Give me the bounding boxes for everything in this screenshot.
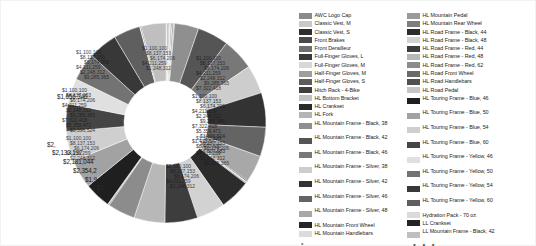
legend-item[interactable]: HL Crankset [299, 103, 411, 110]
legend-swatch [407, 37, 420, 43]
legend-item[interactable]: HL Road Pedal [407, 87, 519, 94]
chart-legend: AWC Logo CapClassic Vest, MClassic Vest,… [299, 12, 535, 240]
legend-item-label: HL Road Pedal [423, 87, 459, 93]
legend-swatch [299, 196, 312, 202]
legend-swatch [299, 62, 312, 68]
legend-item-label: HL Road Frame - Red, 62 [423, 62, 484, 68]
legend-item[interactable]: Half-Finger Gloves, M [299, 70, 411, 77]
legend-item[interactable]: HL Mountain Frame - Black, 38 [299, 120, 411, 134]
legend-item[interactable]: HL Mountain Front Wheel [299, 222, 411, 229]
value-label: $2,354,2 [73, 167, 97, 174]
legend-item-label: Front Brakes [315, 37, 345, 43]
legend-item[interactable]: HL Mountain Handlebars [299, 230, 411, 237]
legend-swatch [299, 152, 312, 158]
legend-item[interactable]: HL Touring Frame - Yellow, 54 [407, 182, 519, 196]
legend-item[interactable]: HL Road Front Wheel [407, 70, 519, 77]
legend-swatch [299, 112, 312, 118]
svg-text:$7,322,418: $7,322,418 [196, 85, 221, 91]
legend-item[interactable]: HL Touring Frame - Yellow, 50 [407, 168, 519, 182]
legend-item[interactable]: Classic Vest, M [299, 20, 411, 27]
legend-item[interactable]: Front Derailleur [299, 45, 411, 52]
donut-plot-area: $1,100,100$8,137,153$6,174,206$4,211,259… [46, 20, 286, 226]
legend-item[interactable]: Hitch Rack - 4-Bike [299, 87, 411, 94]
legend-item[interactable]: HL Road Frame - Black, 48 [407, 37, 519, 44]
legend-item[interactable]: HL Road Handlebars [407, 78, 519, 85]
legend-item-label: Full-Finger Gloves, M [315, 62, 365, 68]
legend-swatch [299, 104, 312, 110]
legend-item-label: HL Crankset [315, 103, 344, 109]
donut-chart: $1,100,100$8,137,153$6,174,206$4,211,259… [1, 1, 293, 246]
legend-swatch [299, 71, 312, 77]
legend-swatch [299, 87, 312, 93]
legend-item-label: HL Mountain Rear Wheel [423, 20, 482, 26]
legend-swatch [407, 54, 420, 60]
legend-item-label: HL Touring Frame - Yellow, 46 [423, 153, 493, 159]
legend-swatch [299, 123, 312, 129]
legend-column-2: HL Mountain PedalHL Mountain Rear WheelH… [407, 12, 519, 243]
legend-item[interactable]: HL Road Frame - Red, 48 [407, 53, 519, 60]
legend-swatch [407, 71, 420, 77]
donut-slices[interactable]: $1,100,100$8,137,153$6,174,206$4,211,259… [46, 20, 286, 226]
legend-item[interactable]: Classic Vest, S [299, 29, 411, 36]
legend-item-label: HL Road Handlebars [423, 78, 472, 84]
legend-item[interactable]: Full-Finger Gloves, M [299, 62, 411, 69]
legend-item[interactable]: Full-Finger Gloves, L [299, 53, 411, 60]
legend-item[interactable]: HL Touring Frame - Blue, 46 [407, 95, 519, 109]
legend-item[interactable]: HL Mountain Frame - Silver, 42 [299, 178, 411, 192]
legend-item[interactable]: HL Road Frame - Red, 62 [407, 62, 519, 69]
svg-text:$3,396,524: $3,396,524 [70, 127, 95, 133]
legend-item[interactable]: AWC Logo Cap [299, 12, 411, 19]
legend-swatch [299, 138, 312, 144]
legend-item-label: HL Fork [315, 111, 334, 117]
legend-item-label: HL Road Frame - Black, 44 [423, 29, 487, 35]
legend-swatch [299, 37, 312, 43]
legend-item-label: Half-Finger Gloves, M [315, 70, 366, 76]
legend-item-label: HL Touring Frame - Yellow, 54 [423, 182, 493, 188]
legend-item-label: Hitch Rack - 4-Bike [315, 87, 360, 93]
legend-item[interactable]: HL Fork [299, 111, 411, 118]
legend-item-label: HL Mountain Handlebars [315, 230, 373, 236]
legend-item[interactable]: HL Road Frame - Black, 44 [407, 29, 519, 36]
legend-item[interactable]: HL Touring Frame - Blue, 60 [407, 139, 519, 153]
legend-item[interactable]: LL Crankset [407, 220, 519, 227]
legend-swatch [407, 186, 420, 192]
legend-item-label: HL Mountain Pedal [423, 12, 468, 18]
legend-item-label: HL Touring Frame - Blue, 50 [423, 109, 489, 115]
legend-item[interactable]: HL Mountain Frame - Silver, 38 [299, 163, 411, 177]
legend-swatch [299, 211, 312, 217]
legend-item[interactable]: HL Touring Frame - Blue, 54 [407, 124, 519, 138]
value-label: $2, [47, 141, 55, 148]
svg-text:$9,285,365: $9,285,365 [84, 74, 109, 80]
legend-item[interactable]: HL Mountain Frame - Silver, 48 [299, 207, 411, 221]
legend-truncation-ellipsis[interactable]: • • • [413, 240, 437, 246]
legend-item[interactable]: HL Mountain Frame - Silver, 46 [299, 193, 411, 207]
legend-item-label: HL Bottom Bracket [315, 95, 359, 101]
legend-item[interactable]: HL Touring Frame - Blue, 50 [407, 109, 519, 123]
legend-item-label: AWC Logo Cap [315, 12, 352, 18]
legend-swatch [299, 13, 312, 19]
legend-item-label: HL Mountain Frame - Silver, 48 [315, 207, 388, 213]
legend-swatch [407, 171, 420, 177]
legend-item[interactable]: HL Touring Frame - Yellow, 46 [407, 153, 519, 167]
legend-item[interactable]: HL Mountain Pedal [407, 12, 519, 19]
legend-swatch [407, 232, 420, 238]
legend-item[interactable]: HL Mountain Rear Wheel [407, 20, 519, 27]
legend-item[interactable]: HL Mountain Frame - Black, 46 [299, 149, 411, 163]
legend-swatch [299, 21, 312, 27]
legend-item[interactable]: HL Touring Frame - Yellow, 60 [407, 197, 519, 211]
value-label: $2,181,044 [63, 158, 94, 165]
legend-item[interactable]: HL Bottom Bracket [299, 95, 411, 102]
legend-swatch [407, 46, 420, 52]
legend-item[interactable]: HL Road Frame - Red, 44 [407, 45, 519, 52]
legend-item[interactable]: Half-Finger Gloves, S [299, 78, 411, 85]
legend-item[interactable]: HL Mountain Frame - Black, 42 [299, 134, 411, 148]
legend-swatch [407, 62, 420, 68]
legend-item-label: HL Mountain Frame - Silver, 42 [315, 178, 388, 184]
legend-item-label: HL Mountain Front Wheel [315, 222, 375, 228]
legend-item[interactable]: Hydration Pack - 70 oz. [407, 212, 519, 219]
legend-item-label: Classic Vest, S [315, 29, 350, 35]
value-label: $2,133,197 [52, 149, 83, 156]
legend-item[interactable]: Front Brakes [299, 37, 411, 44]
legend-item-label: HL Touring Frame - Blue, 46 [423, 95, 489, 101]
legend-item-label: LL Mountain Frame - Black, 42 [423, 228, 495, 234]
